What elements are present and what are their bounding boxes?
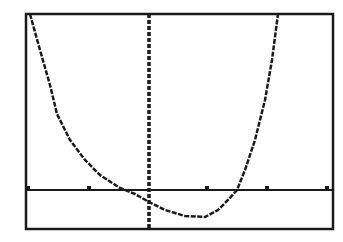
x-axis-tick [87,186,91,190]
function-curve-y1 [30,14,278,217]
x-axis-tick [26,186,30,190]
graph-screen [0,0,343,242]
x-axis-tick [205,186,209,190]
function-graph [0,0,343,242]
x-axis-tick [325,186,329,190]
x-axis-tick [265,186,269,190]
graph-window-frame [26,14,333,229]
